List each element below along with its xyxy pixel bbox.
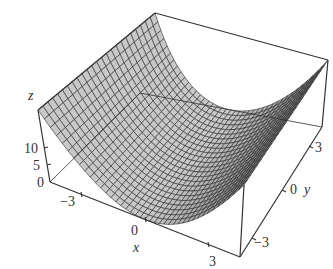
right-vertical-edge <box>322 60 328 127</box>
z-tick-label-5: 5 <box>33 158 40 173</box>
x-axis-label: x <box>132 240 140 255</box>
top-back-edge <box>155 13 328 60</box>
x-tick-3 <box>208 242 209 247</box>
front-vertical-edge <box>240 185 244 257</box>
y-tick-label-m3: −3 <box>254 235 269 250</box>
surface-plot: z 10 5 0 −3 0 x 3 −3 0 y 3 <box>0 0 333 269</box>
x-tick-label-m3: −3 <box>60 194 75 209</box>
z-axis-label: z <box>27 88 34 103</box>
y-tick-label-0: 0 <box>290 182 297 197</box>
z-tick-label-0: 0 <box>37 175 44 190</box>
x-tick-m3 <box>81 192 82 197</box>
y-tick-label-3: 3 <box>315 140 322 155</box>
z-tick-label-10: 10 <box>24 141 38 156</box>
y-axis-label: y <box>302 182 311 197</box>
y-tick-0 <box>282 190 286 192</box>
x-tick-label-0: 0 <box>131 223 138 238</box>
x-tick-label-3: 3 <box>209 254 216 269</box>
